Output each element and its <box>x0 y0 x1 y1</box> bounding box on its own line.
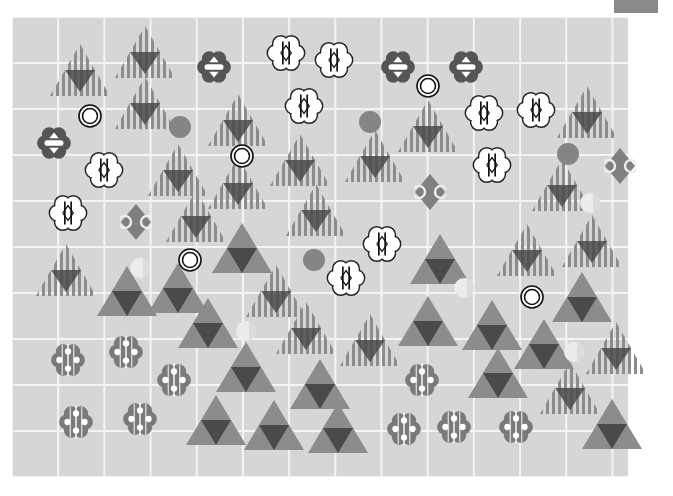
dark-flower-piece[interactable] <box>379 48 417 86</box>
diamond-piece[interactable] <box>120 203 152 241</box>
dotted-blob-piece[interactable] <box>435 408 473 446</box>
dotted-blob-piece[interactable] <box>403 361 441 399</box>
pale-disc-piece[interactable] <box>453 277 475 299</box>
pale-disc-piece[interactable] <box>235 320 257 342</box>
dotted-blob-icon <box>385 410 423 448</box>
white-flower-piece[interactable] <box>361 223 403 265</box>
striped-triangle-piece[interactable] <box>396 98 460 154</box>
striped-triangle-piece[interactable] <box>268 132 332 188</box>
striped-triangle-piece[interactable] <box>338 312 402 368</box>
dotted-blob-icon <box>155 361 193 399</box>
dotted-blob-piece[interactable] <box>497 408 535 446</box>
ring-circle-piece[interactable] <box>230 144 254 168</box>
pale-disc-icon <box>235 320 257 342</box>
solid-circle-piece[interactable] <box>168 115 192 139</box>
striped-triangle-icon <box>495 222 559 278</box>
solid-triangle-piece[interactable] <box>550 268 614 324</box>
striped-triangle-piece[interactable] <box>206 92 270 148</box>
ring-circle-piece[interactable] <box>178 248 202 272</box>
dotted-blob-piece[interactable] <box>107 333 145 371</box>
white-flower-piece[interactable] <box>265 32 307 74</box>
striped-triangle-icon <box>206 92 270 148</box>
ring-circle-icon <box>178 248 202 272</box>
white-flower-icon <box>325 257 367 299</box>
solid-triangle-piece[interactable] <box>214 338 278 394</box>
white-flower-piece[interactable] <box>515 89 557 131</box>
dark-flower-piece[interactable] <box>35 124 73 162</box>
solid-triangle-icon <box>242 396 306 452</box>
white-flower-icon <box>515 89 557 131</box>
dotted-blob-icon <box>49 341 87 379</box>
dark-flower-icon <box>195 48 233 86</box>
solid-circle-icon <box>168 115 192 139</box>
striped-triangle-piece[interactable] <box>284 182 348 238</box>
pale-disc-piece[interactable] <box>563 341 585 363</box>
solid-triangle-piece[interactable] <box>466 344 530 400</box>
white-flower-piece[interactable] <box>283 85 325 127</box>
striped-triangle-piece[interactable] <box>34 242 98 298</box>
pale-disc-icon <box>563 341 585 363</box>
striped-triangle-icon <box>555 84 619 140</box>
dotted-blob-piece[interactable] <box>57 403 95 441</box>
dark-flower-piece[interactable] <box>447 48 485 86</box>
diamond-icon <box>120 203 152 241</box>
white-flower-piece[interactable] <box>463 92 505 134</box>
solid-triangle-piece[interactable] <box>396 292 460 348</box>
striped-triangle-icon <box>48 42 112 98</box>
striped-triangle-icon <box>284 182 348 238</box>
white-flower-icon <box>265 32 307 74</box>
ring-circle-icon <box>416 74 440 98</box>
dark-flower-icon <box>379 48 417 86</box>
white-flower-icon <box>283 85 325 127</box>
solid-circle-piece[interactable] <box>556 142 580 166</box>
striped-triangle-icon <box>538 360 602 416</box>
dotted-blob-piece[interactable] <box>121 400 159 438</box>
dotted-blob-icon <box>497 408 535 446</box>
striped-triangle-piece[interactable] <box>274 300 338 356</box>
striped-triangle-icon <box>34 242 98 298</box>
solid-circle-piece[interactable] <box>302 248 326 272</box>
pale-disc-piece[interactable] <box>129 257 151 279</box>
striped-triangle-icon <box>274 300 338 356</box>
diamond-piece[interactable] <box>414 173 446 211</box>
striped-triangle-piece[interactable] <box>113 24 177 80</box>
striped-triangle-piece[interactable] <box>164 188 228 244</box>
white-flower-piece[interactable] <box>471 144 513 186</box>
dotted-blob-icon <box>435 408 473 446</box>
dotted-blob-piece[interactable] <box>49 341 87 379</box>
dark-flower-icon <box>35 124 73 162</box>
diamond-piece[interactable] <box>604 147 636 185</box>
pale-disc-icon <box>579 192 601 214</box>
striped-triangle-piece[interactable] <box>555 84 619 140</box>
striped-triangle-piece[interactable] <box>48 42 112 98</box>
dotted-blob-piece[interactable] <box>155 361 193 399</box>
white-flower-piece[interactable] <box>325 257 367 299</box>
white-flower-icon <box>463 92 505 134</box>
solid-triangle-icon <box>550 268 614 324</box>
white-flower-piece[interactable] <box>47 192 89 234</box>
ring-circle-piece[interactable] <box>520 285 544 309</box>
pale-disc-piece[interactable] <box>579 192 601 214</box>
white-flower-piece[interactable] <box>313 39 355 81</box>
solid-triangle-piece[interactable] <box>242 396 306 452</box>
ring-circle-icon <box>78 104 102 128</box>
striped-triangle-piece[interactable] <box>560 213 624 269</box>
pale-disc-icon <box>129 257 151 279</box>
striped-triangle-icon <box>338 312 402 368</box>
solid-triangle-icon <box>184 391 248 447</box>
striped-triangle-piece[interactable] <box>538 360 602 416</box>
dotted-blob-icon <box>121 400 159 438</box>
white-flower-piece[interactable] <box>83 149 125 191</box>
ring-circle-piece[interactable] <box>416 74 440 98</box>
striped-triangle-icon <box>396 98 460 154</box>
solid-triangle-piece[interactable] <box>306 399 370 455</box>
dark-flower-icon <box>447 48 485 86</box>
ring-circle-piece[interactable] <box>78 104 102 128</box>
solid-triangle-piece[interactable] <box>184 391 248 447</box>
dotted-blob-piece[interactable] <box>385 410 423 448</box>
dark-flower-piece[interactable] <box>195 48 233 86</box>
solid-circle-piece[interactable] <box>358 110 382 134</box>
corner-tab <box>614 0 658 13</box>
pale-disc-icon <box>453 277 475 299</box>
striped-triangle-piece[interactable] <box>495 222 559 278</box>
